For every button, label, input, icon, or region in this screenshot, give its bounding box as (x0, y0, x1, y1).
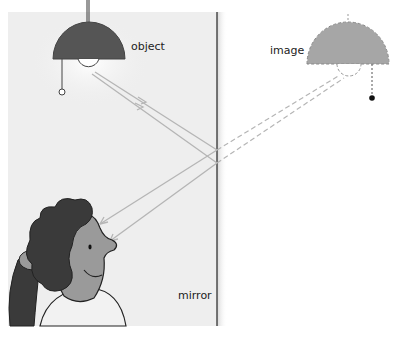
mirror-shade (217, 12, 227, 326)
virtual-rays (217, 75, 344, 163)
image-label: image (270, 44, 304, 57)
image-lamp (307, 14, 389, 101)
object-label: object (131, 40, 166, 53)
mirror-reflection-diagram: object image mirror (0, 0, 409, 337)
mirror-label: mirror (178, 289, 212, 302)
